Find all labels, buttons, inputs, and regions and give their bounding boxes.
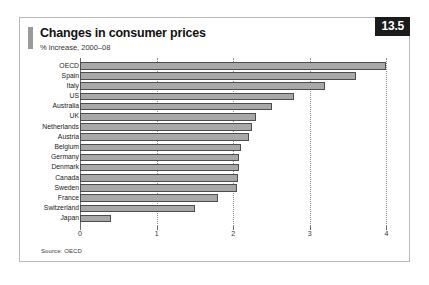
bar	[80, 174, 238, 182]
chart-row: Canada	[20, 173, 411, 183]
chart-row: Belgium	[20, 143, 411, 153]
chart-row: France	[20, 193, 411, 203]
category-label: Switzerland	[0, 203, 79, 213]
category-label: Japan	[0, 213, 79, 223]
title-accent-bar	[28, 27, 33, 49]
category-label: Netherlands	[0, 122, 79, 132]
chart-row: Sweden	[20, 183, 411, 193]
x-axis-tick-labels: 01234	[20, 230, 411, 244]
bar	[80, 194, 218, 202]
category-label: Belgium	[0, 142, 79, 152]
chart-row: Italy	[20, 81, 411, 91]
chart-panel: Changes in consumer prices % increase, 2…	[19, 17, 410, 262]
x-axis-tick-label: 2	[231, 230, 235, 237]
category-label: Canada	[0, 173, 79, 183]
bar	[80, 133, 249, 141]
chart-row: Australia	[20, 102, 411, 112]
x-axis-tick-label: 0	[78, 230, 82, 237]
page-title: Changes in consumer prices	[40, 26, 206, 40]
category-label: Italy	[0, 81, 79, 91]
x-axis-tick-label: 3	[308, 230, 312, 237]
bar	[80, 82, 325, 90]
category-label: France	[0, 193, 79, 203]
category-label: OECD	[0, 61, 79, 71]
chart-row: Austria	[20, 132, 411, 142]
bar	[80, 103, 272, 111]
bar	[80, 164, 239, 172]
chart-plot-area: OECDSpainItalyUSAustraliaUKNetherlandsAu…	[20, 58, 411, 263]
chart-row: US	[20, 92, 411, 102]
bar	[80, 215, 111, 223]
chart-row: UK	[20, 112, 411, 122]
chart-row: Japan	[20, 214, 411, 224]
category-label: UK	[0, 111, 79, 121]
bar	[80, 72, 356, 80]
bar	[80, 123, 252, 131]
category-label: Germany	[0, 152, 79, 162]
chart-subtitle: % increase, 2000–08	[40, 43, 110, 52]
category-label: Spain	[0, 71, 79, 81]
category-label: Sweden	[0, 183, 79, 193]
category-label: Denmark	[0, 162, 79, 172]
bar	[80, 93, 294, 101]
chart-row: Switzerland	[20, 204, 411, 214]
category-label: Australia	[0, 101, 79, 111]
figure-number-badge: 13.5	[375, 17, 410, 36]
x-axis-tick-label: 1	[155, 230, 159, 237]
chart-row: Denmark	[20, 163, 411, 173]
category-label: US	[0, 91, 79, 101]
bar	[80, 62, 386, 70]
chart-row: Netherlands	[20, 122, 411, 132]
bar	[80, 205, 195, 213]
bar	[80, 144, 241, 152]
bar	[80, 184, 237, 192]
chart-row: Spain	[20, 71, 411, 81]
bar	[80, 113, 256, 121]
category-label: Austria	[0, 132, 79, 142]
source-note: Source: OECD	[41, 248, 82, 254]
bar	[80, 154, 239, 162]
chart-row: OECD	[20, 61, 411, 71]
bars-group: OECDSpainItalyUSAustraliaUKNetherlandsAu…	[20, 61, 411, 224]
x-axis-tick-label: 4	[384, 230, 388, 237]
chart-row: Germany	[20, 153, 411, 163]
